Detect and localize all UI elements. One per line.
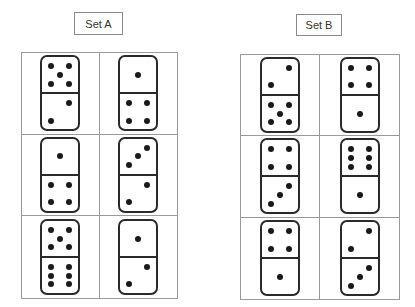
pip-icon	[66, 63, 72, 69]
grid-cell	[241, 218, 320, 299]
domino-4-3	[260, 138, 300, 214]
pip-icon	[126, 118, 132, 124]
pip-icon	[66, 244, 72, 250]
pip-icon	[277, 192, 283, 198]
pip-icon	[348, 164, 354, 170]
domino-half-top	[120, 139, 156, 176]
domino-half-bottom	[42, 176, 78, 211]
domino-4-1	[260, 220, 300, 296]
grid-cell	[320, 136, 399, 217]
domino-2-5	[260, 57, 300, 133]
pip-icon	[126, 199, 132, 205]
domino-half-top	[262, 222, 298, 259]
pip-icon	[286, 228, 292, 234]
set-a-label: Set A	[74, 12, 123, 35]
domino-half-bottom	[342, 177, 378, 212]
grid-cell	[22, 216, 100, 298]
domino-half-top	[262, 140, 298, 177]
grid-cell	[22, 53, 100, 135]
pip-icon	[48, 118, 54, 124]
grid-cell	[241, 136, 320, 217]
pip-icon	[57, 236, 63, 242]
grid-cell	[100, 216, 178, 298]
domino-half-bottom	[262, 96, 298, 131]
domino-half-top	[262, 59, 298, 96]
pip-icon	[268, 102, 274, 108]
pip-icon	[57, 153, 63, 159]
pip-icon	[144, 264, 150, 270]
domino-half-top	[42, 139, 78, 176]
pip-icon	[357, 192, 363, 198]
pip-icon	[144, 145, 150, 151]
domino-5-6	[40, 219, 80, 295]
pip-icon	[48, 63, 54, 69]
pip-icon	[277, 274, 283, 280]
grid-cell	[320, 218, 399, 299]
domino-half-top	[342, 59, 378, 96]
pip-icon	[48, 81, 54, 87]
pip-icon	[366, 82, 372, 88]
pip-icon	[286, 102, 292, 108]
domino-half-bottom	[120, 94, 156, 129]
domino-1-4	[118, 55, 158, 131]
pip-icon	[286, 119, 292, 125]
pip-icon	[48, 227, 54, 233]
pip-icon	[268, 119, 274, 125]
domino-half-top	[120, 57, 156, 94]
pip-icon	[66, 227, 72, 233]
pip-icon	[348, 283, 354, 289]
domino-half-top	[120, 221, 156, 258]
pip-icon	[366, 155, 372, 161]
pip-icon	[135, 153, 141, 159]
pip-icon	[286, 183, 292, 189]
pip-icon	[66, 100, 72, 106]
pip-icon	[48, 273, 54, 279]
pip-icon	[126, 100, 132, 106]
pip-icon	[48, 244, 54, 250]
domino-4-1	[340, 57, 380, 133]
pip-icon	[286, 164, 292, 170]
domino-6-1	[340, 138, 380, 214]
pip-icon	[126, 281, 132, 287]
pip-icon	[366, 265, 372, 271]
pip-icon	[268, 146, 274, 152]
pip-icon	[277, 111, 283, 117]
pip-icon	[348, 155, 354, 161]
pip-icon	[66, 281, 72, 287]
pip-icon	[348, 246, 354, 252]
pip-icon	[357, 274, 363, 280]
domino-half-bottom	[42, 94, 78, 129]
pip-icon	[48, 264, 54, 270]
domino-half-bottom	[342, 259, 378, 294]
pip-icon	[357, 111, 363, 117]
pip-icon	[348, 82, 354, 88]
pip-icon	[66, 264, 72, 270]
pip-icon	[366, 228, 372, 234]
pip-icon	[366, 146, 372, 152]
pip-icon	[144, 100, 150, 106]
pip-icon	[48, 182, 54, 188]
pip-icon	[268, 228, 274, 234]
pip-icon	[135, 236, 141, 242]
pip-icon	[144, 118, 150, 124]
domino-half-bottom	[120, 176, 156, 211]
domino-half-bottom	[262, 177, 298, 212]
pip-icon	[135, 72, 141, 78]
domino-half-bottom	[42, 258, 78, 293]
pip-icon	[66, 182, 72, 188]
grid-cell	[320, 55, 399, 136]
pip-icon	[348, 65, 354, 71]
domino-3-2	[118, 137, 158, 213]
pip-icon	[366, 65, 372, 71]
set-b-grid	[240, 54, 400, 300]
pip-icon	[66, 273, 72, 279]
pip-icon	[48, 199, 54, 205]
pip-icon	[268, 82, 274, 88]
pip-icon	[126, 162, 132, 168]
set-a-grid	[21, 52, 178, 299]
domino-5-2	[40, 55, 80, 131]
set-b-label: Set B	[296, 14, 342, 36]
domino-2-3	[340, 220, 380, 296]
grid-cell	[100, 135, 178, 217]
pip-icon	[366, 164, 372, 170]
